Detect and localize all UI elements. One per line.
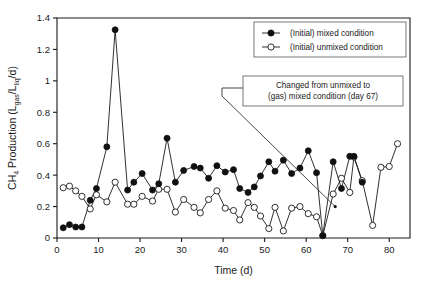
data-point-marker (164, 135, 170, 141)
data-point-marker (320, 233, 326, 239)
data-point-marker (131, 179, 137, 185)
y-tick-label: 1.4 (37, 12, 50, 23)
data-point-marker (338, 186, 344, 192)
data-point-marker (191, 204, 197, 210)
y-tick-label: 0.6 (37, 138, 50, 149)
data-point-marker (87, 197, 93, 203)
annotation-group: Changed from unmixed to (gas) mixed cond… (222, 76, 403, 208)
data-point-marker (280, 228, 286, 234)
data-point-marker (305, 148, 311, 154)
data-point-marker (359, 179, 365, 185)
data-point-marker (237, 217, 243, 223)
data-point-marker (338, 175, 344, 181)
data-point-marker (257, 173, 263, 179)
data-point-marker (191, 164, 197, 170)
chart-canvas: 00.20.40.60.811.21.4 01020304050607080 C… (0, 0, 424, 282)
data-point-marker (125, 187, 131, 193)
data-point-marker (245, 189, 251, 195)
y-axis-title: CH4 Production (Lgas/Lliq/d) (6, 66, 21, 190)
data-point-marker (197, 165, 203, 171)
legend-group: (Initial) mixed condition(Initial) unmix… (254, 22, 406, 57)
y-tick-label: 0.4 (37, 170, 50, 181)
data-point-marker (347, 189, 353, 195)
data-point-marker (214, 188, 220, 194)
annotation-line-1: Changed from unmixed to (276, 81, 371, 90)
data-point-marker (222, 169, 228, 175)
data-point-marker (289, 171, 295, 177)
x-tick-label: 0 (54, 244, 59, 255)
data-point-marker (314, 170, 320, 176)
data-point-marker (125, 201, 131, 207)
data-point-marker (251, 204, 257, 210)
data-point-marker (297, 203, 303, 209)
series-group (60, 27, 401, 239)
data-point-marker (149, 198, 155, 204)
annotation-target-point (334, 205, 337, 208)
y-tick-label: 0.8 (37, 107, 50, 118)
y-axis-ticks: 00.20.40.60.811.21.4 (37, 12, 57, 243)
chart-figure: 00.20.40.60.811.21.4 01020304050607080 C… (0, 0, 424, 282)
data-point-marker (156, 181, 162, 187)
data-point-marker (257, 213, 263, 219)
data-point-marker (150, 187, 156, 193)
x-tick-label: 40 (218, 244, 229, 255)
data-point-marker (60, 185, 66, 191)
data-point-marker (231, 167, 237, 173)
data-point-marker (222, 205, 228, 211)
x-tick-label: 50 (259, 244, 270, 255)
data-point-marker (73, 224, 79, 230)
data-point-marker (266, 225, 272, 231)
data-point-marker (330, 191, 336, 197)
data-point-marker (181, 196, 187, 202)
data-point-marker (87, 206, 93, 212)
data-point-marker (104, 199, 110, 205)
legend-label: (Initial) unmixed condition (290, 43, 383, 52)
x-axis-ticks: 01020304050607080 (54, 238, 394, 255)
data-point-marker (79, 224, 85, 230)
data-point-marker (245, 200, 251, 206)
data-point-marker (60, 225, 66, 231)
data-point-marker (251, 184, 257, 190)
data-point-marker (206, 175, 212, 181)
legend-marker-open-circle (268, 44, 274, 50)
y-tick-label: 0 (45, 232, 50, 243)
data-point-marker (104, 144, 110, 150)
x-tick-label: 60 (301, 244, 312, 255)
data-point-marker (93, 186, 99, 192)
data-point-marker (272, 168, 278, 174)
data-point-marker (66, 183, 72, 189)
data-point-marker (370, 222, 376, 228)
data-point-marker (197, 210, 203, 216)
y-tick-label: 1 (45, 75, 50, 86)
data-point-marker (214, 163, 220, 169)
data-point-marker (313, 214, 319, 220)
data-point-marker (112, 179, 118, 185)
y-tick-label: 1.2 (37, 44, 50, 55)
data-point-marker (386, 163, 392, 169)
data-point-marker (131, 201, 137, 207)
data-point-marker (394, 141, 400, 147)
legend-label: (Initial) mixed condition (290, 29, 374, 38)
data-point-marker (378, 164, 384, 170)
data-point-marker (237, 186, 243, 192)
data-point-marker (79, 193, 85, 199)
x-tick-label: 20 (135, 244, 146, 255)
x-tick-label: 70 (342, 244, 353, 255)
data-point-marker (66, 222, 72, 228)
x-tick-label: 30 (176, 244, 187, 255)
annotation-line-2: (gas) mixed condition (day 67) (268, 92, 378, 101)
data-point-marker (330, 159, 336, 165)
data-point-marker (351, 153, 357, 159)
data-point-marker (139, 193, 145, 199)
data-point-marker (172, 209, 178, 215)
data-point-marker (73, 188, 79, 194)
data-point-marker (181, 167, 187, 173)
data-point-marker (164, 186, 170, 192)
data-point-marker (139, 171, 145, 177)
data-point-marker (272, 204, 278, 210)
x-tick-label: 80 (384, 244, 395, 255)
legend-marker-filled-circle (268, 30, 274, 36)
data-point-marker (289, 205, 295, 211)
data-point-marker (230, 207, 236, 213)
data-point-marker (205, 196, 211, 202)
